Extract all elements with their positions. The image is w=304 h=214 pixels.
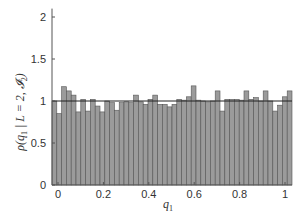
x-tick-label: 0.8 bbox=[232, 188, 247, 200]
histogram-bar bbox=[119, 103, 124, 185]
histogram-bar bbox=[167, 107, 172, 185]
histogram-bar bbox=[143, 104, 148, 185]
histogram-bar bbox=[287, 91, 292, 185]
histogram-bar bbox=[81, 99, 86, 185]
histogram-bar bbox=[186, 97, 191, 185]
histogram-bar bbox=[215, 91, 220, 185]
histogram-bar bbox=[220, 111, 225, 185]
histogram-bar bbox=[86, 111, 91, 185]
x-tick-label: 0 bbox=[55, 188, 61, 200]
y-tick-label: 1.5 bbox=[31, 53, 46, 65]
histogram-bar bbox=[282, 97, 287, 185]
histogram-bar bbox=[100, 112, 105, 185]
histogram-bar bbox=[95, 106, 100, 185]
histogram-bar bbox=[90, 99, 95, 185]
histogram-bar bbox=[138, 102, 143, 185]
histogram-chart: 00.511.52 00.20.40.60.81 q1 ρ(q1 | L = 2… bbox=[0, 0, 304, 214]
histogram-bar bbox=[225, 99, 230, 185]
histogram-bar bbox=[153, 95, 158, 185]
histogram-bar bbox=[244, 91, 249, 185]
histogram-bar bbox=[273, 111, 278, 185]
x-axis-label: q1 bbox=[163, 197, 173, 213]
histogram-bar bbox=[201, 101, 206, 185]
histogram-bar bbox=[158, 104, 163, 185]
y-tick-label: 1 bbox=[40, 95, 46, 107]
histogram-bar bbox=[172, 104, 177, 185]
histogram-bar bbox=[239, 100, 244, 185]
histogram-bar bbox=[129, 103, 134, 185]
histogram-bar bbox=[230, 99, 235, 185]
histogram-bar bbox=[182, 100, 187, 185]
y-axis-ticks: 00.511.52 bbox=[31, 11, 55, 191]
histogram-bar bbox=[162, 104, 167, 185]
y-tick-label: 2 bbox=[40, 11, 46, 23]
histogram-bar bbox=[134, 95, 139, 185]
x-tick-label: 1 bbox=[282, 188, 288, 200]
histogram-bar bbox=[110, 103, 115, 185]
histogram-bar bbox=[206, 102, 211, 185]
histogram-bar bbox=[148, 99, 153, 185]
histogram-bar bbox=[196, 100, 201, 185]
histogram-bar bbox=[57, 114, 62, 185]
histogram-bar bbox=[234, 99, 239, 185]
x-tick-label: 0.6 bbox=[187, 188, 202, 200]
histogram-bar bbox=[263, 91, 268, 185]
x-tick-label: 0.4 bbox=[141, 188, 156, 200]
x-tick-label: 0.2 bbox=[96, 188, 111, 200]
histogram-bar bbox=[268, 101, 273, 185]
histogram-bar bbox=[249, 99, 254, 185]
histogram-bar bbox=[210, 101, 215, 185]
histogram-bar bbox=[71, 95, 76, 185]
histogram-bar bbox=[105, 101, 110, 185]
y-tick-label: 0.5 bbox=[31, 137, 46, 149]
y-tick-label: 0 bbox=[40, 179, 46, 191]
histogram-bar bbox=[124, 102, 129, 185]
histogram-bar bbox=[177, 99, 182, 185]
y-axis-label: ρ(q1 | L = 2, 𝓘2) bbox=[13, 73, 29, 152]
histogram-bar bbox=[76, 112, 81, 185]
histogram-bar bbox=[254, 98, 259, 185]
histogram-bar bbox=[278, 105, 283, 185]
histogram-bar bbox=[258, 101, 263, 185]
histogram-bar bbox=[66, 91, 71, 185]
histogram-bar bbox=[114, 110, 119, 185]
